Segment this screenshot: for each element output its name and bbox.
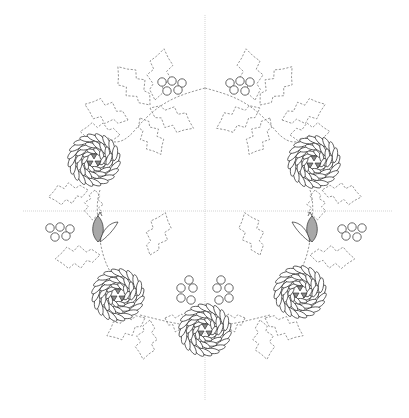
berry	[174, 86, 182, 94]
berries-top-left	[158, 77, 186, 95]
rose-center-knot	[91, 154, 97, 159]
berry	[158, 78, 166, 86]
berry	[215, 296, 223, 304]
berry	[187, 296, 195, 304]
holly-leaf-right-4	[246, 118, 271, 154]
berry	[163, 87, 171, 95]
holly-leaf-right-11	[253, 320, 275, 359]
berry	[246, 78, 254, 86]
bud-left	[93, 212, 118, 242]
holly-leaf-left-4	[139, 118, 164, 154]
holly-leaf-right-9	[239, 213, 264, 255]
berry	[353, 233, 361, 241]
berry	[46, 224, 54, 232]
berries-bottom-left	[177, 276, 197, 304]
rose-center-knot	[202, 324, 208, 329]
rose-center-knot	[297, 286, 303, 291]
stem-left-0	[100, 88, 205, 142]
holly-leaf-left-2	[85, 99, 128, 124]
holly-leaf-left-9	[146, 213, 171, 255]
rose-top-left	[66, 132, 122, 188]
berry	[225, 284, 233, 292]
holly-leaf-left-3	[150, 106, 194, 133]
berry	[56, 223, 64, 231]
holly-leaf-right-6	[322, 183, 361, 205]
rose-middle-left	[90, 267, 146, 323]
berry	[241, 87, 249, 95]
rose-center-knot	[311, 156, 317, 161]
berry	[185, 276, 193, 284]
rose-top-right	[286, 134, 342, 190]
holly-leaf-left-11	[135, 320, 157, 359]
berry	[177, 294, 185, 302]
roses	[66, 132, 342, 358]
holly-leaf-right-10	[265, 316, 303, 340]
holly-leaf-right-2	[282, 99, 325, 124]
berry	[189, 284, 197, 292]
holly-leaf-left-1	[118, 67, 150, 105]
holly-leaf-right-8	[310, 245, 355, 268]
berry	[213, 284, 221, 292]
berry	[225, 294, 233, 302]
embroidery-pattern	[0, 0, 409, 418]
stem-right-0	[205, 88, 310, 142]
berry	[62, 232, 70, 240]
berry	[358, 224, 366, 232]
berry	[230, 86, 238, 94]
berry	[168, 77, 176, 85]
holly-leaf-right-1	[260, 67, 292, 105]
berry	[217, 276, 225, 284]
berries-bottom-right	[213, 276, 233, 304]
berry	[342, 232, 350, 240]
berries-middle-right	[338, 223, 366, 241]
berries-middle-left	[46, 223, 74, 241]
berry	[348, 223, 356, 231]
rose-center-knot	[115, 289, 121, 294]
berry	[236, 77, 244, 85]
berries-top-right	[226, 77, 254, 95]
rose-middle-right	[272, 264, 328, 320]
holly-leaf-right-3	[217, 106, 261, 133]
holly-leaf-left-6	[49, 183, 88, 205]
berry	[177, 284, 185, 292]
holly-leaf-left-8	[55, 245, 100, 268]
berry	[51, 233, 59, 241]
